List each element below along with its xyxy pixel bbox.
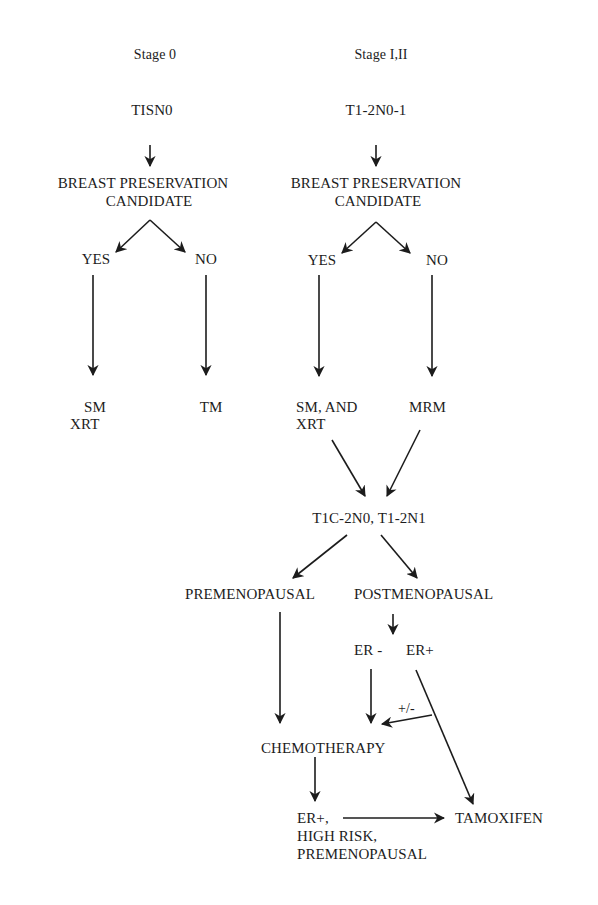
stage-1-2-yes-outcome-line2: XRT bbox=[296, 416, 325, 433]
high-risk-node-line1: ER+, bbox=[297, 810, 329, 827]
arrow-candidate0-to-yes bbox=[116, 220, 150, 252]
merge-node: T1C-2N0, T1-2N1 bbox=[312, 510, 426, 527]
stage-0-yes-outcome-line1: SM bbox=[84, 399, 106, 416]
arrow-merge-to-premenopausal bbox=[293, 535, 347, 578]
stage-0-yes-label: YES bbox=[82, 251, 111, 268]
stage-1-2-yes-label: YES bbox=[308, 252, 337, 269]
stage-1-2-decision-line2: CANDIDATE bbox=[335, 193, 422, 210]
arrow-mrm-to-merge bbox=[387, 430, 420, 496]
arrow-er-positive-to-tamoxifen bbox=[416, 670, 473, 804]
arrow-candidate0-to-no bbox=[150, 220, 185, 252]
t1-2n0-1-node: T1-2N0-1 bbox=[346, 102, 407, 119]
stage-1-2-no-label: NO bbox=[426, 252, 448, 269]
arrow-merge-to-postmenopausal bbox=[381, 535, 417, 578]
arrow-candidate12-to-no bbox=[376, 222, 410, 253]
high-risk-node-line3: PREMENOPAUSAL bbox=[297, 846, 427, 863]
arrow-sm-and-xrt-to-merge bbox=[332, 440, 365, 496]
stage-1-2-yes-outcome-line1: SM, AND bbox=[296, 399, 358, 416]
er-positive-node: ER+ bbox=[406, 642, 434, 659]
stage-1-2-no-outcome: MRM bbox=[409, 399, 446, 416]
er-negative-node: ER - bbox=[354, 642, 382, 659]
stage-0-decision-line2: CANDIDATE bbox=[106, 193, 193, 210]
stage-0-no-outcome: TM bbox=[200, 399, 223, 416]
stage-0-no-label: NO bbox=[195, 251, 217, 268]
optional-plus-minus-label: +/- bbox=[398, 700, 415, 717]
tamoxifen-node: TAMOXIFEN bbox=[455, 810, 543, 827]
stage-1-2-decision-line1: BREAST PRESERVATION bbox=[291, 175, 462, 192]
treatment-flowchart: Stage 0 TISN0 BREAST PRESERVATION CANDID… bbox=[0, 0, 598, 905]
arrow-candidate12-to-yes bbox=[342, 222, 376, 253]
postmenopausal-node: POSTMENOPAUSAL bbox=[354, 586, 493, 603]
high-risk-node-line2: HIGH RISK, bbox=[297, 828, 377, 845]
stage-0-decision-line1: BREAST PRESERVATION bbox=[58, 175, 229, 192]
stage-0-yes-outcome-line2: XRT bbox=[70, 416, 99, 433]
premenopausal-node: PREMENOPAUSAL bbox=[185, 586, 315, 603]
chemotherapy-node: CHEMOTHERAPY bbox=[261, 740, 386, 757]
stage-0-label: Stage 0 bbox=[134, 46, 176, 63]
stage-1-2-label: Stage I,II bbox=[354, 46, 407, 63]
flowchart-arrows bbox=[0, 0, 598, 905]
tisn0-node: TISN0 bbox=[131, 102, 172, 119]
